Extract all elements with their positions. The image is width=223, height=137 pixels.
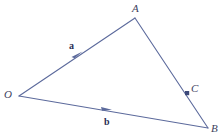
segment-AB [135, 18, 208, 128]
segment-OA [19, 18, 135, 96]
vector-arrowheads [72, 52, 113, 111]
point-label-B: B [211, 123, 218, 134]
triangle-graphic [0, 0, 223, 137]
point-label-C: C [191, 83, 198, 94]
vector-triangle-figure: A O B C a b [0, 0, 223, 137]
point-markers [185, 91, 189, 95]
vector-label-a: a [69, 41, 74, 51]
point-marker-C [185, 91, 189, 95]
triangle-edges [19, 18, 208, 128]
vector-label-b: b [104, 117, 110, 127]
point-label-O: O [4, 89, 12, 100]
point-label-A: A [132, 3, 139, 14]
arrowhead-vector-b [101, 107, 112, 111]
segment-OB [19, 96, 208, 128]
